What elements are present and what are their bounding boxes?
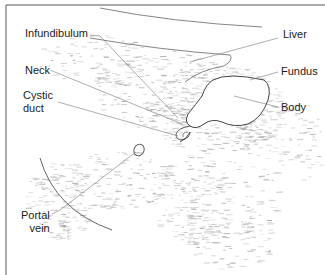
portal-vein-circle <box>132 142 146 157</box>
label-infundibulum: Infundibulum <box>25 27 88 40</box>
leader-neck <box>50 70 182 124</box>
label-cystic-duct: Cystic duct <box>23 89 53 115</box>
label-liver: Liver <box>283 28 307 41</box>
label-body: Body <box>281 101 306 114</box>
label-portal-vein: Portal vein <box>21 209 50 235</box>
label-neck: Neck <box>25 64 50 77</box>
liver-surface-line <box>100 8 262 27</box>
leader-cystic-duct <box>58 102 178 136</box>
leader-portal-vein <box>52 152 136 214</box>
label-fundus: Fundus <box>281 65 318 78</box>
leader-liver <box>190 38 278 62</box>
echo-texture <box>25 36 324 270</box>
